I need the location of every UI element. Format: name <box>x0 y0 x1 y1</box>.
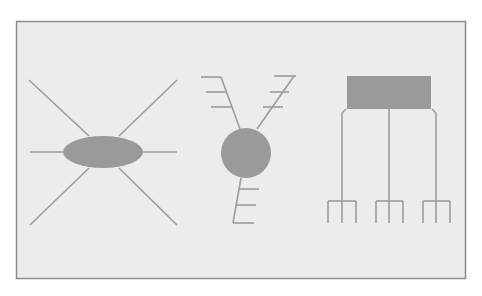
circle-body <box>221 128 271 178</box>
ellipse-body <box>63 136 143 168</box>
rect-body <box>347 76 431 109</box>
diagram-canvas <box>0 0 482 296</box>
